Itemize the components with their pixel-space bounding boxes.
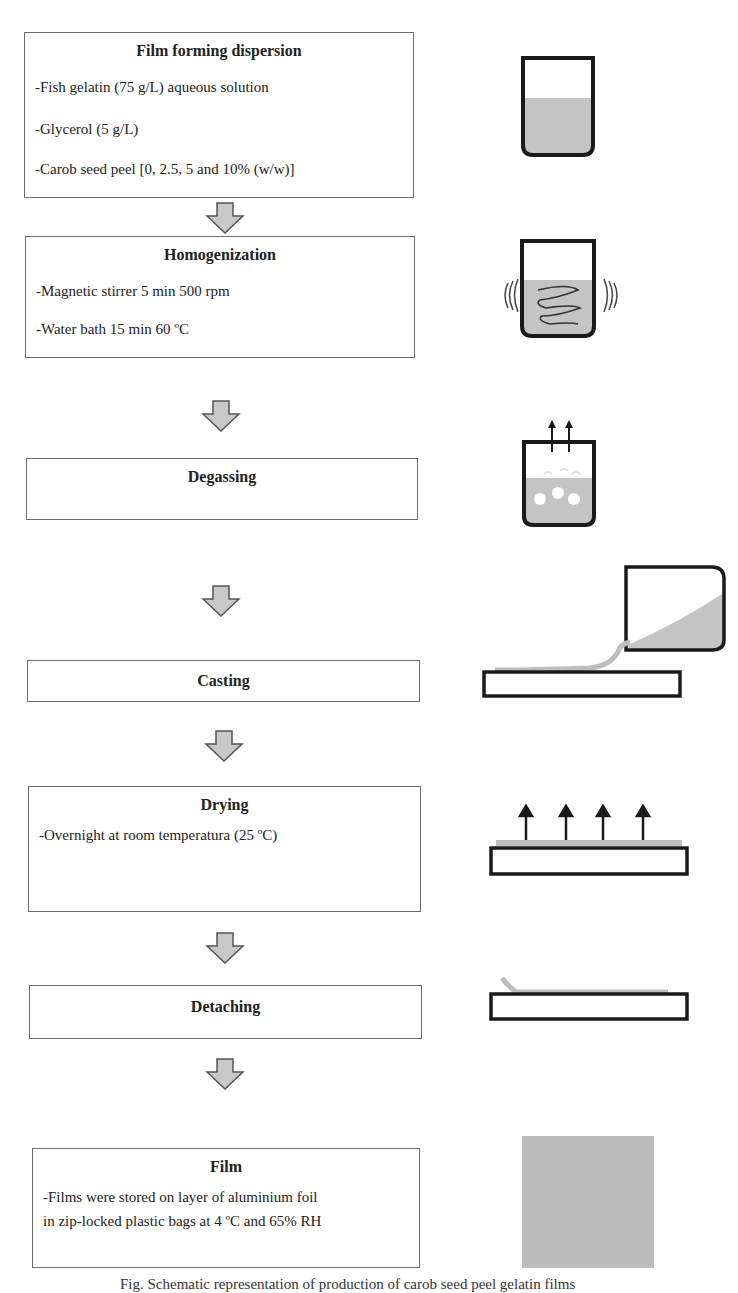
film-sample-square-icon [522, 1136, 654, 1268]
step-detail: -Overnight at room temperatura (25 ºC) [39, 827, 277, 844]
step-film-forming-dispersion: Film forming dispersion -Fish gelatin (7… [24, 32, 414, 198]
step-detail: -Carob seed peel [0, 2.5, 5 and 10% (w/w… [35, 161, 295, 178]
step-title: Casting [28, 672, 419, 690]
step-detail: -Glycerol (5 g/L) [35, 121, 138, 138]
step-title: Film forming dispersion [25, 42, 413, 60]
step-title: Homogenization [26, 246, 414, 264]
down-arrow-icon [201, 400, 241, 432]
step-drying: Drying -Overnight at room temperatura (2… [28, 786, 421, 912]
step-title: Film [33, 1158, 419, 1176]
step-title: Drying [29, 796, 420, 814]
down-arrow-icon [205, 1058, 245, 1090]
step-detail: -Magnetic stirrer 5 min 500 rpm [36, 283, 230, 300]
step-detail: -Water bath 15 min 60 ºC [36, 321, 189, 338]
down-arrow-icon [205, 932, 245, 964]
down-arrow-icon [205, 202, 245, 234]
figure-caption: Fig. Schematic representation of product… [120, 1276, 575, 1293]
step-detail: -Fish gelatin (75 g/L) aqueous solution [35, 79, 269, 96]
step-casting: Casting [27, 660, 420, 702]
step-detaching: Detaching [29, 985, 422, 1039]
step-film: Film -Films were stored on layer of alum… [32, 1148, 420, 1268]
beaker-stirring-vibrating-icon [498, 238, 638, 343]
peeling-film-from-plate-icon [488, 970, 693, 1025]
plate-evaporation-arrows-icon [488, 800, 693, 880]
beaker-with-solution-icon [518, 55, 598, 160]
step-degassing: Degassing [26, 458, 418, 520]
step-detail: -Films were stored on layer of aluminium… [43, 1189, 318, 1206]
step-title: Detaching [30, 998, 421, 1016]
beaker-bubbles-escaping-icon [520, 418, 600, 528]
step-title: Degassing [27, 468, 417, 486]
step-detail: in zip-locked plastic bags at 4 ºC and 6… [43, 1213, 321, 1230]
down-arrow-icon [204, 730, 244, 762]
pouring-solution-onto-plate-icon [480, 562, 730, 702]
step-homogenization: Homogenization -Magnetic stirrer 5 min 5… [25, 236, 415, 358]
down-arrow-icon [201, 585, 241, 617]
